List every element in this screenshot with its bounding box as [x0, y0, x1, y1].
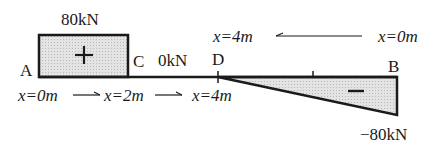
negative-shear-triangle — [218, 77, 397, 115]
point-a-label: A — [20, 62, 32, 79]
arrow-left-icon — [276, 33, 362, 36]
point-b-label: B — [388, 58, 399, 75]
position-label-x0-right: x=0m — [378, 28, 418, 45]
negative-value-label: −80kN — [360, 126, 407, 143]
arrow-right-icon — [73, 92, 100, 95]
position-label-x0-left: x=0m — [18, 87, 58, 104]
zero-value-label: 0kN — [158, 52, 187, 69]
positive-value-label: 80kN — [61, 11, 99, 28]
arrow-right-icon — [155, 92, 182, 95]
position-label-x2-left: x=2m — [104, 87, 144, 104]
point-d-label: D — [212, 51, 224, 68]
point-c-label: C — [133, 53, 144, 70]
position-label-x4-right: x=4m — [213, 28, 253, 45]
position-label-x4-left: x=4m — [192, 87, 232, 104]
